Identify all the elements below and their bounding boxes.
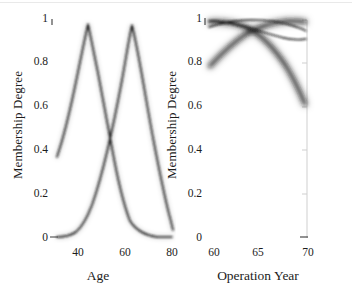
age-curve-old bbox=[57, 25, 173, 237]
age-y-axis-label: Membership Degree bbox=[10, 15, 26, 235]
oy-xtick-60: 60 bbox=[200, 246, 228, 258]
oy-xtick-65: 65 bbox=[244, 246, 272, 258]
oy-bands-mid bbox=[210, 21, 305, 104]
oy-right-spine bbox=[302, 20, 307, 238]
chart-panel-age: 1 0.8 0.6 0.4 0.2 0 40 60 80 Membership … bbox=[0, 0, 176, 298]
age-curves bbox=[57, 24, 173, 237]
age-xtick-60: 60 bbox=[110, 246, 140, 258]
age-x-axis-label: Age bbox=[58, 268, 138, 284]
oy-x-axis-label: Operation Year bbox=[198, 268, 318, 284]
oy-xtick-70: 70 bbox=[294, 246, 322, 258]
age-curves-halo bbox=[57, 24, 173, 237]
fuzzy-membership-figure: 1 0.8 0.6 0.4 0.2 0 40 60 80 Membership … bbox=[0, 0, 352, 298]
age-xtick-40: 40 bbox=[63, 246, 93, 258]
age-curve-young bbox=[57, 24, 172, 237]
chart-panel-operation-year: 1 0.8 0.6 0.4 0.2 0 60 65 70 Membership … bbox=[176, 0, 352, 298]
oy-y-axis-label: Membership Degree bbox=[164, 15, 180, 235]
